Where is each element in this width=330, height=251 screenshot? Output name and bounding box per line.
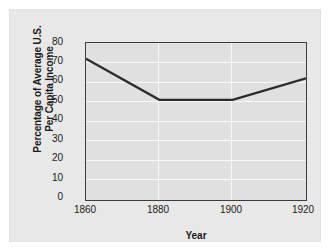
y-tick-label-70: 70 [23,56,63,66]
x-tick-label-1920: 1920 [280,205,326,215]
y-tick-label-50: 50 [23,95,63,105]
series-line [86,43,306,200]
y-tick-label-80: 80 [23,37,63,47]
y-tick-label-20: 20 [23,153,63,163]
x-tick-label-1860: 1860 [62,205,108,215]
x-axis-title: Year [85,230,307,241]
x-tick-label-1900: 1900 [208,205,254,215]
figure-panel: Percentage of Average U.S. Per Capita In… [9,9,321,242]
plot-area [85,42,307,201]
y-tick-label-10: 10 [23,173,63,183]
x-tick-label-1880: 1880 [135,205,181,215]
y-tick-label-0: 0 [23,192,63,202]
y-tick-label-40: 40 [23,114,63,124]
y-tick-label-60: 60 [23,75,63,85]
y-axis-title-line-2: Per Capita Income [44,9,56,169]
chart-figure: Percentage of Average U.S. Per Capita In… [0,0,330,251]
y-axis-title-line-1: Percentage of Average U.S. [32,9,44,169]
y-axis-title: Percentage of Average U.S. Per Capita In… [32,9,56,169]
y-tick-label-30: 30 [23,134,63,144]
plot-inner [86,43,306,200]
